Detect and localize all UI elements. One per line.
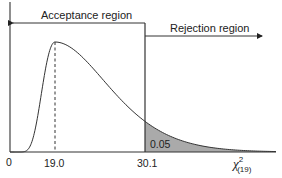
acceptance-region-label: Acceptance region bbox=[41, 9, 132, 21]
x-tick-0: 0 bbox=[6, 156, 12, 168]
chi-subscript: (19) bbox=[237, 165, 251, 174]
x-axis-variable-label: χ2(19) bbox=[233, 156, 251, 174]
shaded-area-value: 0.05 bbox=[150, 138, 170, 150]
x-tick-critical: 30.1 bbox=[137, 157, 157, 169]
chi-superscript: 2 bbox=[239, 155, 243, 164]
density-curve bbox=[10, 42, 276, 152]
rejection-region-label: Rejection region bbox=[170, 22, 250, 34]
x-tick-mode: 19.0 bbox=[44, 157, 64, 169]
